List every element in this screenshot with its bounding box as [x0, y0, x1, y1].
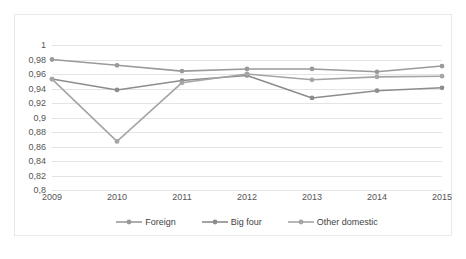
series-line	[52, 74, 442, 141]
legend-marker-icon	[288, 217, 314, 227]
data-point	[50, 77, 55, 82]
y-tick-label: 0,98	[28, 55, 46, 64]
y-tick-label: 0,92	[28, 99, 46, 108]
data-point	[310, 77, 315, 82]
data-point	[375, 69, 380, 74]
y-axis-labels: 10,980,960,940,920,90,880,860,840,820,8	[12, 45, 46, 190]
x-tick-label: 2011	[172, 193, 191, 202]
y-tick-label: 0,82	[28, 171, 46, 180]
data-point	[245, 72, 250, 77]
data-point	[440, 74, 445, 79]
chart-legend: ForeignBig fourOther domestic	[52, 213, 442, 231]
data-point	[180, 80, 185, 85]
data-point	[115, 88, 120, 93]
data-point	[310, 96, 315, 101]
data-point	[115, 63, 120, 68]
data-point	[375, 88, 380, 93]
x-tick-label: 2015	[432, 193, 452, 202]
line-chart: 10,980,960,940,920,90,880,860,840,820,8 …	[0, 0, 466, 259]
y-tick-label: 0,86	[28, 142, 46, 151]
legend-marker-icon	[116, 217, 142, 227]
y-tick-label: 0,84	[28, 157, 46, 166]
y-tick-label: 1	[41, 41, 46, 50]
data-point	[375, 75, 380, 80]
x-tick-label: 2012	[237, 193, 257, 202]
data-point	[440, 85, 445, 90]
legend-item[interactable]: Foreign	[116, 217, 176, 227]
x-tick-label: 2013	[302, 193, 322, 202]
data-point	[115, 139, 120, 144]
data-point	[180, 69, 185, 74]
data-point	[245, 67, 250, 72]
x-tick-label: 2014	[367, 193, 387, 202]
legend-item[interactable]: Big four	[202, 217, 262, 227]
legend-marker-icon	[202, 217, 228, 227]
data-point	[310, 67, 315, 72]
data-point	[50, 57, 55, 62]
x-tick-label: 2010	[107, 193, 127, 202]
y-tick-label: 0,9	[33, 113, 46, 122]
x-axis-labels: 2009201020112012201320142015	[52, 193, 442, 207]
y-tick-label: 0,96	[28, 70, 46, 79]
y-tick-label: 0,88	[28, 128, 46, 137]
legend-label: Foreign	[145, 218, 176, 227]
legend-label: Other domestic	[317, 218, 378, 227]
data-point	[440, 64, 445, 69]
series-other-domestic	[50, 72, 445, 144]
series-line	[52, 75, 442, 97]
series-layer	[52, 45, 442, 190]
legend-label: Big four	[231, 218, 262, 227]
y-tick-label: 0,94	[28, 84, 46, 93]
plot-area	[52, 45, 442, 190]
gridline	[52, 190, 442, 191]
legend-item[interactable]: Other domestic	[288, 217, 378, 227]
x-tick-label: 2009	[42, 193, 62, 202]
